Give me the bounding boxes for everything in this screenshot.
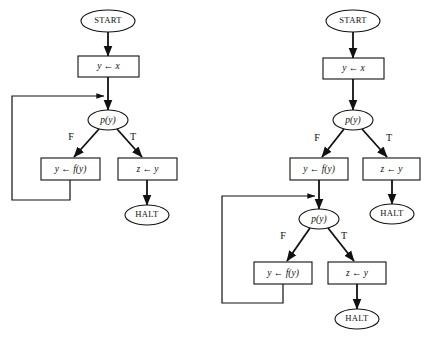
node-label: z ← y <box>379 164 403 174</box>
node-process-r-assign3: z ← y <box>363 158 420 180</box>
branch-label-false: F <box>68 131 74 142</box>
node-terminal-r-halt1: HALT <box>370 204 414 224</box>
flowchart-svg: STARTy ← xp(y)y ← f(y)z ← yHALTSTARTy ← … <box>0 0 428 338</box>
node-decision-r-pred1: p(y) <box>333 110 373 130</box>
node-label: y ← f(y) <box>302 164 335 175</box>
branch-labels-layer: FTFTFT <box>68 131 392 241</box>
node-label: z ← y <box>135 164 159 174</box>
node-label: START <box>339 15 367 25</box>
node-label: p(y) <box>310 214 326 225</box>
loop-back-edge <box>222 196 315 303</box>
loop-back-edge <box>12 96 104 200</box>
node-process-l-assign1: y ← x <box>78 56 139 77</box>
flow-edge <box>322 129 344 157</box>
node-terminal-l-start: START <box>81 10 135 32</box>
flow-edge <box>362 129 387 157</box>
nodes-layer: STARTy ← xp(y)y ← f(y)z ← yHALTSTARTy ← … <box>41 10 420 329</box>
branch-label-false: F <box>314 132 320 143</box>
node-label: y ← x <box>96 61 120 71</box>
node-decision-r-pred2: p(y) <box>299 209 339 229</box>
node-process-r-assign4: y ← f(y) <box>254 262 312 284</box>
flow-edge <box>74 129 99 157</box>
branch-label-true: T <box>341 230 347 241</box>
branch-label-true: T <box>130 131 136 142</box>
node-label: y ← x <box>341 63 365 73</box>
node-label: p(y) <box>99 115 115 126</box>
node-label: y ← f(y) <box>266 268 299 279</box>
node-process-l-assign2: y ← f(y) <box>41 158 100 180</box>
figure-canvas: STARTy ← xp(y)y ← f(y)z ← yHALTSTARTy ← … <box>0 0 428 338</box>
node-process-l-assign3: z ← y <box>118 158 177 180</box>
node-process-r-assign1: y ← x <box>323 58 384 79</box>
node-label: HALT <box>135 209 159 219</box>
branch-label-true: T <box>386 132 392 143</box>
flow-edge <box>287 228 310 261</box>
node-decision-l-pred: p(y) <box>88 110 128 130</box>
node-label: HALT <box>380 208 404 218</box>
node-terminal-l-halt: HALT <box>125 205 169 225</box>
node-process-r-assign2: y ← f(y) <box>290 158 348 180</box>
node-label: y ← f(y) <box>54 164 87 175</box>
node-label: HALT <box>345 313 369 323</box>
node-process-r-assign5: z ← y <box>328 262 386 284</box>
node-terminal-r-start: START <box>326 10 380 32</box>
node-label: p(y) <box>344 115 360 126</box>
branch-label-false: F <box>280 230 286 241</box>
node-label: START <box>94 15 122 25</box>
node-terminal-r-halt2: HALT <box>335 309 379 329</box>
node-label: z ← y <box>345 268 369 278</box>
